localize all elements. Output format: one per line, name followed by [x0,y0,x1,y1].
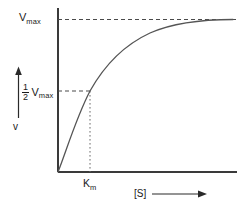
km-axis-label: Km [83,178,96,189]
one-half-fraction: 1 2 [22,83,29,103]
vmax-subscript: max [26,17,40,26]
velocity-axis-label: v [13,122,18,132]
km-subscript: m [90,183,96,192]
half-vmax-axis-label: 1 2 Vmax [22,83,53,103]
michaelis-menten-figure: Vmax 1 2 Vmax v Km [S] [0,0,241,215]
half-vmax-symbol: V [32,87,39,98]
fraction-denominator: 2 [22,92,29,102]
plot-canvas [0,0,241,215]
figure-background [0,0,241,215]
half-vmax-subscript: max [39,92,53,100]
vmax-axis-label: Vmax [19,12,41,23]
substrate-axis-label: [S] [134,189,146,199]
fraction-numerator: 1 [22,83,29,92]
km-symbol: K [83,177,90,189]
